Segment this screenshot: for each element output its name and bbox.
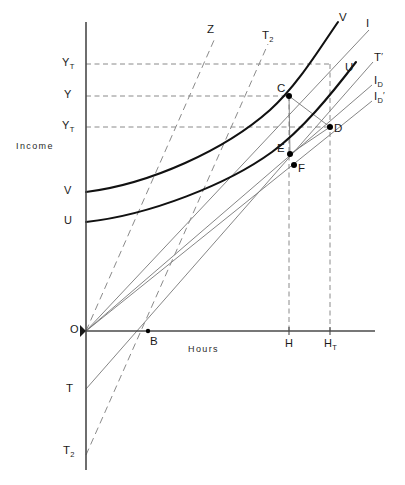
- vertical-guide-lines: [289, 64, 330, 331]
- y-axis-label-yt-lower: YT: [62, 120, 74, 131]
- point-marker-b: [146, 329, 150, 333]
- origin-label: O: [70, 324, 79, 335]
- origin-marker: [80, 325, 86, 337]
- point-label-e: E: [277, 143, 285, 155]
- x-axis-label-h: H: [285, 338, 293, 349]
- point-marker-d: [327, 124, 333, 130]
- y-axis-label-yt-upper: YT: [62, 57, 74, 68]
- point-label-f: F: [298, 163, 305, 175]
- curve-u: [86, 62, 356, 222]
- point-marker-c: [286, 93, 292, 99]
- income-hours-diagram: YT Y YT V U H HT O Income Hours V I U T′: [0, 0, 405, 485]
- curve-label-z: Z: [207, 24, 214, 36]
- y-axis-label-v: V: [64, 185, 72, 196]
- axes: [86, 22, 375, 470]
- income-curves: [86, 22, 356, 222]
- ray-t2: [86, 44, 268, 455]
- point-marker-e: [287, 151, 293, 157]
- curve-label-t2-bottom: T2: [63, 445, 75, 457]
- segment-ce: [289, 96, 290, 154]
- y-axis-label-u: U: [64, 215, 72, 226]
- curve-label-u: U: [345, 62, 354, 74]
- point-label-c: C: [277, 83, 286, 95]
- point-label-b: B: [150, 336, 158, 348]
- ray-id: [86, 85, 372, 331]
- data-points: [146, 93, 333, 333]
- y-axis-title: Income: [16, 141, 54, 151]
- ray-id-prime: [86, 101, 372, 331]
- curve-label-id-prime: ID′: [374, 91, 385, 103]
- x-axis-title: Hours: [188, 344, 219, 354]
- x-axis-label-ht: HT: [324, 338, 337, 349]
- point-marker-f: [291, 162, 297, 168]
- horizontal-guide-lines: [86, 64, 330, 127]
- origin-arrow-icon: [80, 325, 86, 337]
- dashed-rays: [86, 38, 268, 455]
- curve-label-id: ID: [374, 75, 383, 87]
- point-label-d: D: [334, 123, 343, 135]
- curve-label-v: V: [339, 12, 347, 24]
- curve-label-t-prime: T′: [374, 52, 383, 64]
- curve-label-i: I: [366, 18, 370, 30]
- ray-i: [86, 30, 369, 331]
- ray-z: [86, 38, 215, 331]
- y-axis-label-y: Y: [64, 89, 72, 100]
- curve-label-t2-top: T2: [262, 30, 274, 42]
- curve-label-t: T: [66, 383, 73, 395]
